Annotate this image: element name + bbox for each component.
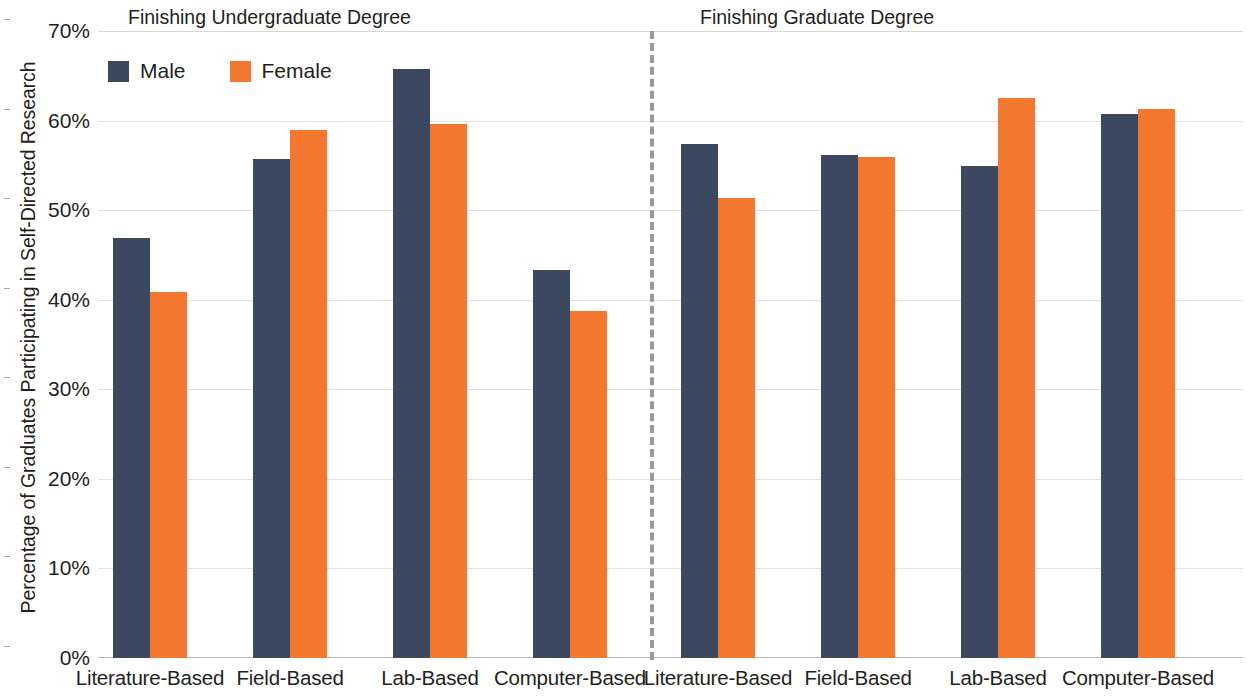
bar-male: [393, 69, 430, 658]
bar-female: [718, 198, 755, 658]
legend-label-female: Female: [262, 59, 332, 83]
bar-female: [858, 157, 895, 658]
panel-title-graduate: Finishing Graduate Degree: [700, 6, 934, 29]
x-tick-label: Lab-Based: [381, 666, 478, 690]
bar-male: [961, 166, 998, 658]
y-tick-label: 20%: [10, 467, 90, 491]
x-tick-label: Lab-Based: [949, 666, 1046, 690]
x-tick-label: Literature-Based: [644, 666, 792, 690]
y-tick-mark: [4, 288, 10, 289]
bar-male: [533, 270, 570, 658]
panel-title-undergraduate: Finishing Undergraduate Degree: [128, 6, 411, 29]
y-tick-label: 10%: [10, 556, 90, 580]
bar-female: [570, 311, 607, 658]
legend-swatch-female-icon: [230, 61, 251, 82]
bar-female: [150, 292, 187, 658]
bar-chart-figure: Percentage of Graduates Participating in…: [0, 0, 1247, 700]
x-tick-label: Field-Based: [804, 666, 911, 690]
legend-item-male: Male: [108, 59, 186, 83]
y-tick-label: 60%: [10, 109, 90, 133]
plot-area: [98, 31, 1243, 658]
gridline: [98, 121, 1243, 122]
bar-male: [681, 144, 718, 658]
bar-male: [253, 159, 290, 658]
legend-label-male: Male: [140, 59, 186, 83]
bar-female: [1138, 109, 1175, 658]
bar-female: [290, 130, 327, 658]
bar-male: [113, 238, 150, 658]
y-tick-label: 50%: [10, 198, 90, 222]
bar-male: [1101, 114, 1138, 658]
y-tick-label: 40%: [10, 288, 90, 312]
legend-item-female: Female: [230, 59, 332, 83]
x-tick-label: Computer-Based: [1062, 666, 1214, 690]
y-tick-mark: [4, 467, 10, 468]
y-tick-mark: [4, 198, 10, 199]
y-tick-mark: [4, 377, 10, 378]
bar-female: [998, 98, 1035, 658]
y-tick-mark: [4, 646, 10, 647]
legend: Male Female: [108, 59, 332, 83]
y-tick-label: 30%: [10, 377, 90, 401]
panel-divider-dashed-line: [650, 31, 654, 660]
legend-swatch-male-icon: [108, 61, 129, 82]
y-tick-label: 70%: [10, 19, 90, 43]
x-tick-label: Literature-Based: [76, 666, 224, 690]
x-tick-label: Field-Based: [236, 666, 343, 690]
y-tick-mark: [4, 109, 10, 110]
bar-male: [821, 155, 858, 658]
x-tick-label: Computer-Based: [494, 666, 646, 690]
y-tick-mark: [4, 556, 10, 557]
bar-female: [430, 124, 467, 658]
y-tick-mark: [4, 19, 10, 20]
